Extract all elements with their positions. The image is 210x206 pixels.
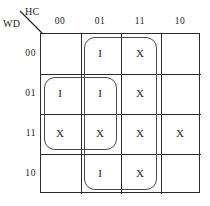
cell-value: X	[136, 128, 144, 139]
row-variables-label: WD	[3, 19, 20, 29]
kmap-cell-r0-c0[interactable]	[40, 33, 80, 73]
kmap-cell-r0-c2[interactable]: X	[120, 33, 160, 73]
kmap-cell-r2-c0[interactable]: X	[40, 113, 80, 153]
kmap-cell-r2-c2[interactable]: X	[120, 113, 160, 153]
column-variables-label: HC	[25, 7, 40, 17]
cell-value: I	[98, 168, 102, 179]
cell-value: X	[96, 128, 104, 139]
cell-value: I	[98, 48, 102, 59]
kmap-cell-r1-c1[interactable]: I	[80, 73, 120, 113]
kmap-cell-r1-c3[interactable]	[160, 73, 200, 113]
row-header-3: 10	[0, 169, 36, 179]
kmap-cell-r0-c1[interactable]: I	[80, 33, 120, 73]
kmap-cell-r3-c2[interactable]: X	[120, 153, 160, 193]
kmap-cell-r1-c2[interactable]: X	[120, 73, 160, 113]
cell-value: X	[176, 128, 184, 139]
row-header-1: 01	[0, 89, 36, 99]
karnaugh-map: HC WD 00 01 11 10 00 01 11 10 I X I I X …	[0, 0, 210, 206]
kmap-cell-r3-c3[interactable]	[160, 153, 200, 193]
kmap-cell-r1-c0[interactable]: I	[40, 73, 80, 113]
cell-value: X	[136, 168, 144, 179]
column-header-2: 11	[120, 17, 160, 27]
kmap-cell-r2-c1[interactable]: X	[80, 113, 120, 153]
row-header-2: 11	[0, 129, 36, 139]
cell-value: I	[98, 88, 102, 99]
cell-value: I	[58, 88, 62, 99]
kmap-cell-r2-c3[interactable]: X	[160, 113, 200, 153]
kmap-cell-r3-c1[interactable]: I	[80, 153, 120, 193]
cell-value: X	[136, 88, 144, 99]
kmap-cell-r3-c0[interactable]	[40, 153, 80, 193]
cell-value: X	[56, 128, 64, 139]
column-header-0: 00	[40, 17, 80, 27]
column-header-1: 01	[80, 17, 120, 27]
kmap-cell-r0-c3[interactable]	[160, 33, 200, 73]
column-header-3: 10	[160, 17, 200, 27]
row-header-0: 00	[0, 49, 36, 59]
cell-value: X	[136, 48, 144, 59]
